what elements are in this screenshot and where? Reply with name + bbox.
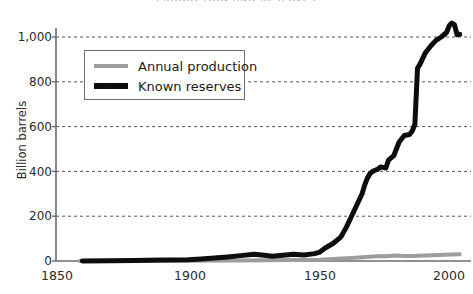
- legend-item-annual-production: Annual production: [94, 57, 257, 75]
- legend-label-known-reserves: Known reserves: [138, 79, 241, 94]
- plot-area: [0, 0, 473, 294]
- chart-legend: Annual production Known reserves: [84, 50, 245, 100]
- legend-label-annual-production: Annual production: [138, 59, 257, 74]
- legend-swatch-annual-production: [94, 64, 128, 68]
- legend-swatch-known-reserves: [94, 83, 128, 89]
- legend-item-known-reserves: Known reserves: [94, 77, 241, 95]
- production-reserves-chart: PRODUCTION AND RESERVES Billion barrels …: [0, 0, 473, 294]
